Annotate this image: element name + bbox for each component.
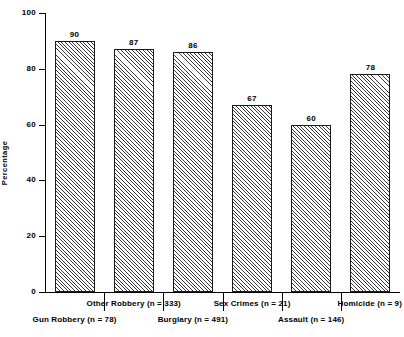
plot-area [45, 13, 400, 292]
x-axis-category-label: Homicide (n = 9) [338, 299, 402, 309]
y-axis-tick-label: 0 [0, 288, 36, 296]
y-axis-tick-label: 20 [0, 232, 36, 240]
bar-value-label: 78 [350, 63, 390, 72]
bar-value-label: 87 [114, 38, 154, 47]
bar [291, 125, 331, 292]
bar [55, 41, 95, 292]
bar-value-label: 60 [291, 114, 331, 123]
x-axis-category-label: Burglary (n = 491) [158, 315, 229, 325]
y-axis-tick-label: 80 [0, 65, 36, 73]
y-axis-tick-label: 40 [0, 176, 36, 184]
bar [350, 74, 390, 292]
bar [232, 105, 272, 292]
bar-value-label: 67 [232, 94, 272, 103]
bar [114, 49, 154, 292]
y-axis-title: Percentage [0, 118, 9, 208]
bar-value-label: 86 [173, 41, 213, 50]
x-axis-category-label: Sex Crimes (n = 21) [214, 299, 291, 309]
x-axis-category-label: Other Robbery (n = 333) [87, 299, 181, 309]
bar-value-label: 90 [55, 30, 95, 39]
x-axis-category-label: Assault (n = 146) [278, 315, 344, 325]
y-axis-tick-label: 60 [0, 121, 36, 129]
x-axis-category-label: Gun Robbery (n = 78) [33, 315, 117, 325]
bar-chart: Percentage 020406080100 908786676078 Gun… [0, 0, 404, 337]
y-axis-tick-label: 100 [0, 9, 36, 17]
bar [173, 52, 213, 292]
